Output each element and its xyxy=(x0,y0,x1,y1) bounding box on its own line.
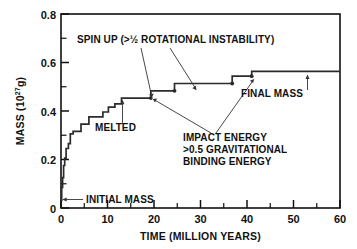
x-tick-label: 60 xyxy=(334,213,346,225)
x-tick-label: 0 xyxy=(58,213,64,225)
annotation-initial-mass: INITIAL MASS xyxy=(62,194,154,205)
y-axis-title-tail: g) xyxy=(14,77,26,87)
y-tick-label: 0.4 xyxy=(41,106,57,118)
x-tick-label: 30 xyxy=(194,213,206,225)
annotation-impact-energy-line2: >0.5 GRAVITATIONAL xyxy=(183,144,287,155)
annotation-spin-up-label: SPIN UP (>½ ROTATIONAL INSTABILITY) xyxy=(77,34,274,45)
x-tick-label: 20 xyxy=(148,213,160,225)
chart-canvas: 0.8 0.6 0.4 0.2 0 0 10 20 30 40 50 60 TI… xyxy=(0,0,357,249)
x-tick-labels: 0 10 20 30 40 50 60 xyxy=(58,213,346,225)
y-tick-label: 0.2 xyxy=(41,154,56,166)
event-markers xyxy=(149,74,254,100)
y-tick-label: 0 xyxy=(50,203,56,215)
x-tick-label: 50 xyxy=(287,213,299,225)
annotation-initial-mass-label: INITIAL MASS xyxy=(86,194,154,205)
marker-dot xyxy=(230,82,234,86)
annotation-impact-energy-line1: IMPACT ENERGY xyxy=(183,132,267,143)
svg-text:MASS (1027g): MASS (1027g) xyxy=(14,77,26,146)
annotation-final-mass-label: FINAL MASS xyxy=(241,88,303,99)
y-tick-labels: 0.8 0.6 0.4 0.2 0 xyxy=(41,9,57,215)
x-tick-label: 40 xyxy=(241,213,253,225)
y-tick-label: 0.8 xyxy=(41,9,56,21)
x-tick-label: 10 xyxy=(101,213,113,225)
mass-vs-time-figure: 0.8 0.6 0.4 0.2 0 0 10 20 30 40 50 60 TI… xyxy=(0,0,357,249)
y-axis-title-exponent: 27 xyxy=(14,87,21,95)
marker-dot xyxy=(173,89,177,93)
annotation-melted-label: MELTED xyxy=(95,122,136,133)
annotation-final-mass: FINAL MASS xyxy=(241,75,309,99)
marker-dot xyxy=(250,74,254,78)
y-axis-title: MASS (1027g) xyxy=(14,77,26,146)
y-axis-title-main: MASS (10 xyxy=(14,95,26,145)
x-axis-title: TIME (MILLION YEARS) xyxy=(140,230,261,242)
annotation-impact-energy-line3: BINDING ENERGY xyxy=(183,156,272,167)
y-tick-label: 0.6 xyxy=(41,57,56,69)
